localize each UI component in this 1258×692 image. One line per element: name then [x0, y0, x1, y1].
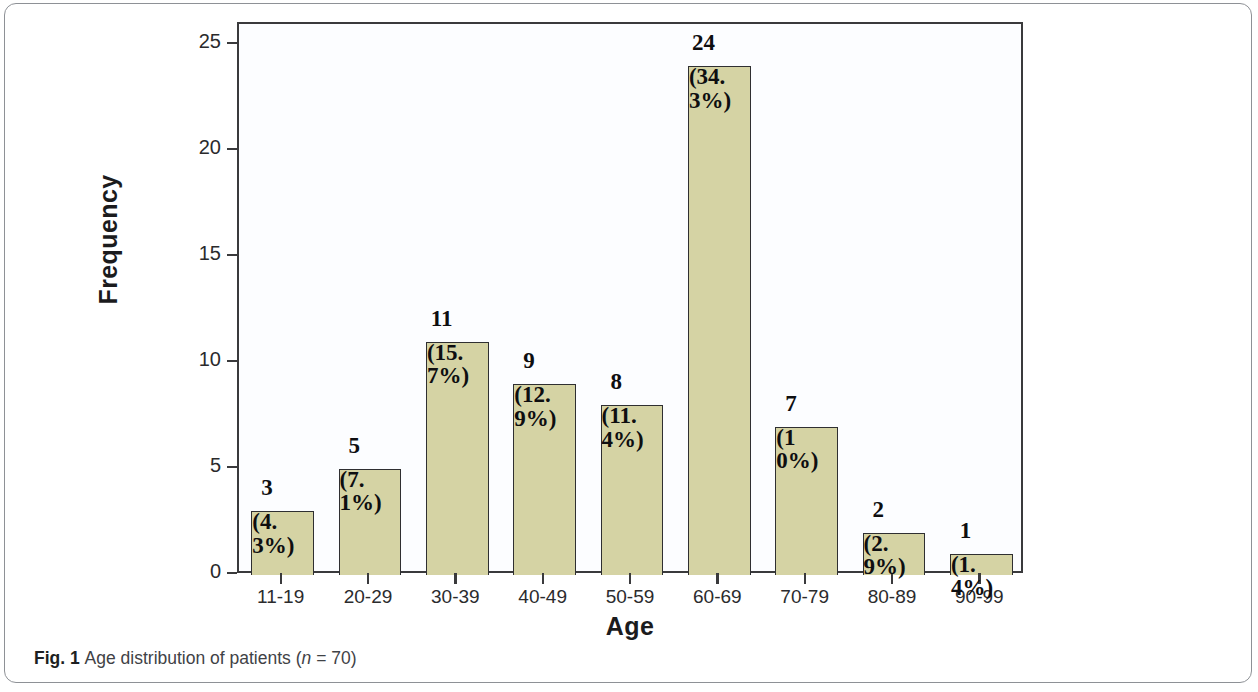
bar-count-label: 5: [339, 433, 370, 459]
x-tick-label: 30-39: [412, 586, 499, 608]
x-tick-label: 50-59: [586, 586, 673, 608]
y-tick-mark: [227, 360, 237, 362]
x-tick-mark: [454, 573, 456, 584]
x-tick-mark: [629, 573, 631, 584]
x-tick-label: 60-69: [674, 586, 761, 608]
bar-count-label: 8: [601, 369, 632, 395]
bar-percent-label: (4.3%): [252, 510, 311, 557]
bar-percent-label: (34.3%): [689, 65, 748, 112]
caption-n-symbol: n: [302, 648, 312, 668]
y-tick-label: 5: [210, 454, 221, 477]
figure-container: Frequency 0510152025 11-1920-2930-3940-4…: [0, 0, 1258, 692]
bar-percent-label: (10%): [776, 426, 835, 473]
x-tick-label: 20-29: [324, 586, 411, 608]
y-tick-label: 10: [199, 348, 221, 371]
bar-count-label: 7: [775, 391, 806, 417]
y-tick-mark: [227, 254, 237, 256]
bar: [688, 66, 751, 575]
x-tick-label: 11-19: [237, 586, 324, 608]
x-tick-label: 80-89: [848, 586, 935, 608]
caption-paren-open: (: [291, 648, 302, 668]
x-tick-label: 40-49: [499, 586, 586, 608]
bar-percent-label: (11.4%): [602, 404, 661, 451]
x-tick-mark: [367, 573, 369, 584]
x-tick-mark: [280, 573, 282, 584]
y-tick-label: 25: [199, 30, 221, 53]
y-tick-mark: [227, 148, 237, 150]
bar-count-label: 24: [688, 30, 719, 56]
caption-figure-number: Fig. 1: [34, 648, 80, 668]
caption-n-number: = 70): [316, 648, 356, 668]
bar-percent-label: (2.9%): [864, 532, 923, 579]
bar-count-label: 11: [426, 306, 457, 332]
bar-count-label: 3: [251, 475, 282, 501]
y-tick-label: 0: [210, 560, 221, 583]
x-axis-title: Age: [237, 612, 1023, 641]
bar-percent-label: (12.9%): [514, 383, 573, 430]
y-tick-mark: [227, 572, 237, 574]
bar-percent-label: (15.7%): [427, 341, 486, 388]
bar-count-label: 1: [950, 518, 981, 544]
x-tick-mark: [804, 573, 806, 584]
x-tick-mark: [542, 573, 544, 584]
x-tick-label: 70-79: [761, 586, 848, 608]
y-tick-label: 20: [199, 136, 221, 159]
bar-chart: Frequency 0510152025 11-1920-2930-3940-4…: [0, 0, 1258, 640]
bar-percent-label: (7.1%): [340, 468, 399, 515]
bar-percent-label: (1.4%): [951, 553, 1010, 600]
bar-count-label: 9: [513, 348, 544, 374]
y-tick-mark: [227, 42, 237, 44]
y-tick-mark: [227, 466, 237, 468]
figure-caption: Fig. 1 Age distribution of patients (n =…: [34, 648, 357, 669]
x-tick-mark: [716, 573, 718, 584]
y-axis-title: Frequency: [94, 110, 123, 370]
y-tick-label: 15: [199, 242, 221, 265]
caption-title: Age distribution of patients: [85, 648, 291, 668]
bar-count-label: 2: [863, 497, 894, 523]
